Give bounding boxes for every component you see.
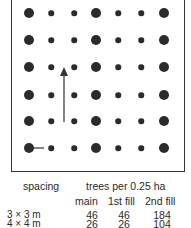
- subheader-1st-fill: 1st fill: [108, 195, 135, 207]
- spacing-header: spacing: [23, 180, 59, 192]
- row-fill1: 26: [109, 218, 139, 228]
- row-main: 26: [77, 218, 107, 228]
- row-spacing: 4 × 4 m: [7, 218, 41, 228]
- arrow-up-icon: [0, 0, 191, 175]
- trees-header: trees per 0.25 ha: [86, 180, 165, 192]
- row-fill2: 104: [147, 218, 177, 228]
- subheader-main: main: [75, 195, 98, 207]
- subheader-2nd-fill: 2nd fill: [145, 195, 175, 207]
